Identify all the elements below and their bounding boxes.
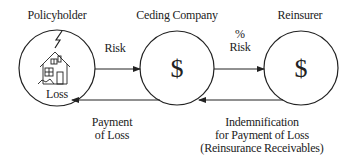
policyholder-title: Policyholder	[22, 9, 92, 22]
payment-of-loss-label: Payment of Loss	[82, 116, 142, 142]
indemnification-label: Indemnification for Payment of Loss (Rei…	[182, 116, 342, 155]
loss-label: Loss	[42, 88, 72, 101]
indemnification-line3: (Reinsurance Receivables)	[182, 142, 342, 155]
percent-risk-label: % Risk	[220, 28, 260, 54]
ceding-company-dollar-symbol: $	[162, 56, 192, 82]
reinsurer-title: Reinsurer	[270, 9, 330, 22]
house-with-lightning-icon	[38, 31, 70, 84]
payment-of-loss-line2: of Loss	[82, 129, 142, 142]
risk-label: Risk	[95, 42, 135, 55]
reinsurer-dollar-symbol: $	[286, 56, 316, 82]
percent-risk-line2: Risk	[220, 41, 260, 54]
ceding-company-title: Ceding Company	[127, 9, 227, 22]
